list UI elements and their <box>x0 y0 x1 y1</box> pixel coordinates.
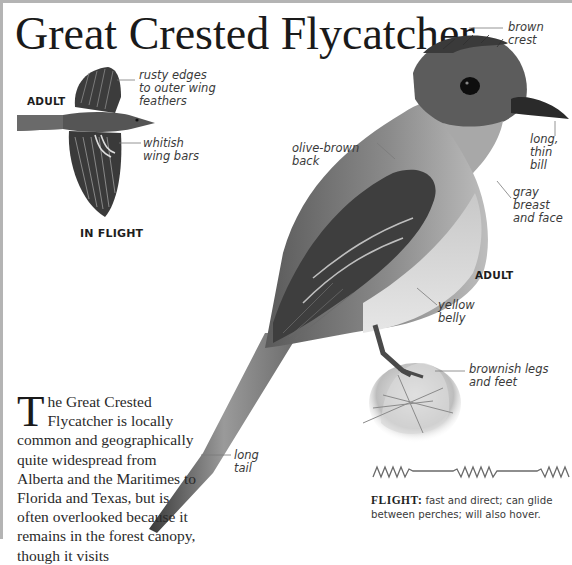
flight-description: FLIGHT: fast and direct; can glide betwe… <box>371 493 572 522</box>
drop-cap: T <box>17 394 45 428</box>
flight-label: FLIGHT: <box>371 494 422 506</box>
annotation-bill: long, thin bill <box>530 133 558 172</box>
annotation-breast: gray breast and face <box>513 186 572 225</box>
annotation-wing-bars: whitish wing bars <box>143 137 199 163</box>
main-age-label: ADULT <box>475 269 513 281</box>
annotation-back: olive-brown back <box>292 142 359 168</box>
in-flight-bird-illustration <box>17 67 155 217</box>
annotation-crest: brown crest <box>508 21 544 47</box>
species-description: The Great Crested Flycatcher is locally … <box>17 392 197 565</box>
inset-caption: IN FLIGHT <box>80 227 143 240</box>
annotation-tail: long tail <box>234 449 259 475</box>
inset-age-label: ADULT <box>27 95 65 107</box>
annotation-belly: yellow belly <box>438 299 475 325</box>
zigzag-glide-flight-pattern-icon <box>373 467 569 477</box>
annotation-rusty-edges: rusty edges to outer wing feathers <box>139 69 216 108</box>
perched-bird-illustration <box>149 35 569 533</box>
annotation-legs: brownish legs and feet <box>469 363 548 389</box>
